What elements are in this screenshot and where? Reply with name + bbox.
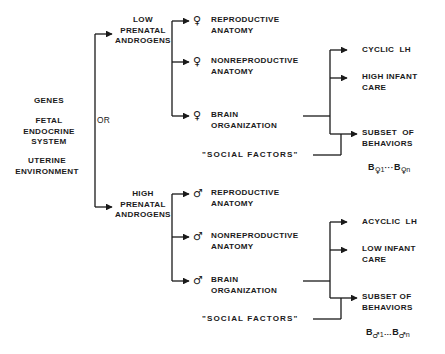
input-fetal-endocrine-system: FETAL ENDOCRINE SYSTEM: [6, 116, 92, 148]
flow-diagram: GENES FETAL ENDOCRINE SYSTEM UTERINE ENV…: [0, 0, 445, 354]
condition-low-prenatal-androgens: LOW PRENATAL ANDROGENS: [113, 15, 173, 47]
outcome-reproductive-anatomy-male: REPRODUCTIVE ANATOMY: [211, 188, 280, 209]
male-symbol-icon: ♂: [193, 231, 203, 242]
condition-high-prenatal-androgens: HIGH PRENATAL ANDROGENS: [113, 189, 173, 221]
outcome-brain-organization-female: BRAIN ORGANIZATION: [211, 110, 277, 131]
male-symbol-icon: ♂: [193, 188, 203, 199]
behavior-set-female: B♀1···B♀n: [358, 152, 410, 185]
male-symbol-icon: ♂: [399, 331, 406, 340]
outcome-nonreproductive-anatomy-male: NONREPRODUCTIVE ANATOMY: [211, 231, 299, 252]
female-symbol-icon: ♀: [193, 110, 201, 121]
behavior-ellipsis: …: [384, 328, 393, 337]
male-symbol-icon: ♂: [193, 275, 203, 286]
male-symbol-icon: ♂: [373, 331, 380, 340]
behavior-last-index: n: [406, 165, 410, 174]
result-low-infant-care: LOW INFANT CARE: [362, 244, 416, 265]
modifier-social-factors-bottom: "SOCIAL FACTORS": [202, 314, 298, 325]
female-symbol-icon: ♀: [193, 56, 201, 67]
outcome-nonreproductive-anatomy-female: NONREPRODUCTIVE ANATOMY: [211, 56, 299, 77]
behavior-last-index: n: [406, 330, 410, 339]
modifier-social-factors-top: "SOCIAL FACTORS": [202, 150, 298, 161]
result-high-infant-care: HIGH INFANT CARE: [362, 72, 418, 93]
input-uterine-environment: UTERINE ENVIRONMENT: [0, 156, 94, 177]
female-symbol-icon: ♀: [193, 15, 201, 26]
behavior-set-male: B♂1…B♂n: [356, 317, 410, 350]
outcome-brain-organization-male: BRAIN ORGANIZATION: [211, 275, 277, 296]
result-acyclic-lh: ACYCLIC LH: [362, 217, 417, 228]
result-subset-of-behaviors-male: SUBSET OF BEHAVIORS: [362, 292, 413, 313]
result-subset-of-behaviors-female: SUBSET OF BEHAVIORS: [362, 128, 414, 149]
result-cyclic-lh: CYCLIC LH: [362, 45, 411, 56]
outcome-reproductive-anatomy-female: REPRODUCTIVE ANATOMY: [211, 15, 280, 36]
or-operator: OR: [97, 115, 110, 125]
input-genes: GENES: [10, 96, 88, 107]
behavior-ellipsis: ···: [384, 163, 394, 172]
